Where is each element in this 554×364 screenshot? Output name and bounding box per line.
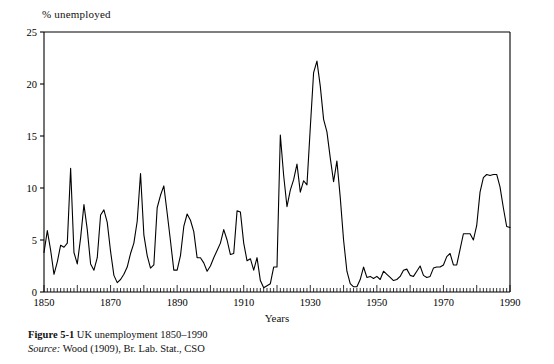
unemployment-line-chart: 0510152025185018701890191019301950197019… (0, 0, 554, 312)
x-tick-label: 1910 (233, 297, 254, 308)
figure-title: UK unemployment 1850–1990 (77, 329, 208, 340)
x-tick-label: 1890 (167, 297, 188, 308)
figure-caption: Figure 5-1 UK unemployment 1850–1990 Sou… (28, 328, 207, 356)
y-tick-label: 15 (27, 131, 38, 142)
figure-number: Figure 5-1 (28, 329, 74, 340)
x-tick-label: 1950 (366, 297, 387, 308)
y-tick-label: 5 (32, 235, 37, 246)
y-tick-label: 10 (27, 183, 38, 194)
source-label: Source: (28, 343, 60, 354)
x-tick-label: 1870 (100, 297, 121, 308)
series-line-uk-unemployment (44, 61, 510, 288)
x-axis-title: Years (0, 312, 554, 324)
caption-line-title: Figure 5-1 UK unemployment 1850–1990 (28, 328, 207, 342)
x-tick-label: 1850 (34, 297, 55, 308)
caption-line-source: Source: Wood (1909), Br. Lab. Stat., CSO (28, 342, 207, 356)
y-tick-label: 25 (27, 27, 38, 38)
y-axis-title: % unemployed (42, 8, 111, 20)
x-tick-label: 1990 (500, 297, 521, 308)
x-tick-label: 1970 (433, 297, 454, 308)
figure-container: % unemployed 051015202518501870189019101… (0, 0, 554, 364)
x-tick-label: 1930 (300, 297, 321, 308)
tick-labels: 0510152025185018701890191019301950197019… (27, 27, 521, 309)
y-tick-label: 0 (32, 287, 37, 298)
source-text: Wood (1909), Br. Lab. Stat., CSO (63, 343, 205, 354)
y-tick-label: 20 (27, 79, 38, 90)
